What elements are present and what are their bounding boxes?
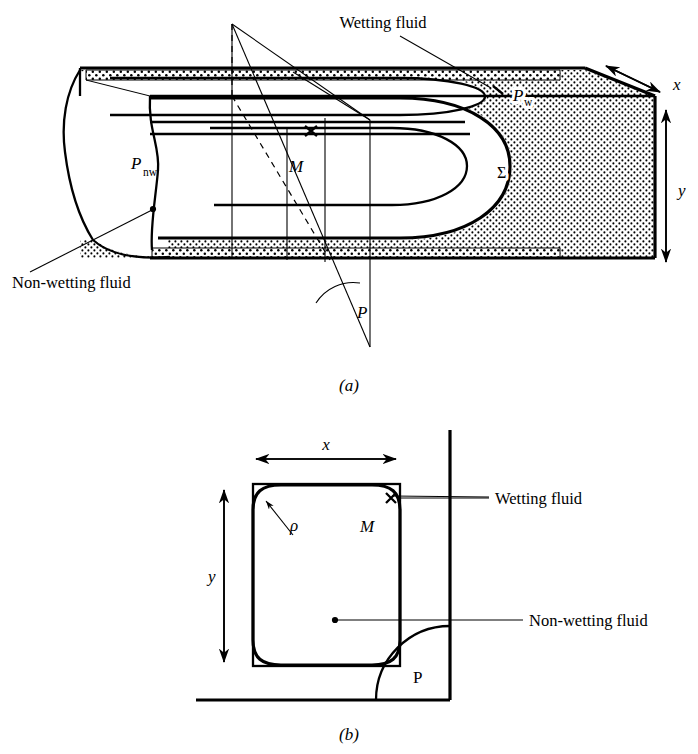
label-pnw-symbol: P [130, 154, 141, 173]
label-radius-rho: ρ [289, 516, 298, 535]
label-wetting-fluid: Wetting fluid [339, 13, 427, 32]
leader-dot-non-wetting [150, 206, 156, 212]
pore-square [253, 484, 400, 666]
radius-arrow [266, 501, 293, 535]
caption-b: (b) [339, 725, 359, 744]
leader-dot-non-wetting-b [332, 617, 338, 623]
label-angle-p-b: P [413, 668, 422, 687]
label-pnw-subscript: nw [143, 166, 158, 178]
point-m-marker-b [386, 493, 396, 503]
label-pw-subscript: w [524, 96, 533, 108]
pore-square-outline [253, 484, 400, 666]
label-non-wetting-fluid: Non-wetting fluid [12, 273, 131, 292]
label-pw-symbol: P [512, 86, 523, 105]
figure-root: Wetting fluid Non-wetting fluid P w P nw… [0, 0, 698, 754]
label-wetting-fluid-b: Wetting fluid [495, 489, 583, 508]
panel-a-svg: Wetting fluid Non-wetting fluid P w P nw… [0, 0, 698, 410]
label-axis-y: y [676, 181, 686, 200]
label-point-m: M [288, 157, 304, 176]
label-interface-sigma: Σ [497, 164, 506, 181]
panel-a-3d-view: Wetting fluid Non-wetting fluid P w P nw… [0, 0, 698, 410]
label-angle-p: P [356, 303, 367, 322]
solid-walls [196, 430, 450, 700]
label-axis-x: x [672, 75, 681, 94]
panel-b-svg: Wetting fluid Non-wetting fluid ρ M P x … [0, 400, 698, 754]
label-axis-x-b: x [321, 435, 330, 454]
label-axis-y-b: y [206, 567, 216, 586]
caption-a: (a) [339, 376, 359, 395]
leader-lines-b [332, 496, 523, 623]
radius-arrow-line [266, 501, 293, 535]
label-non-wetting-fluid-b: Non-wetting fluid [529, 611, 648, 630]
label-point-m-b: M [359, 517, 375, 536]
leader-wetting-fluid-b [392, 496, 489, 497]
panel-b-cross-section: Wetting fluid Non-wetting fluid ρ M P x … [0, 400, 698, 754]
